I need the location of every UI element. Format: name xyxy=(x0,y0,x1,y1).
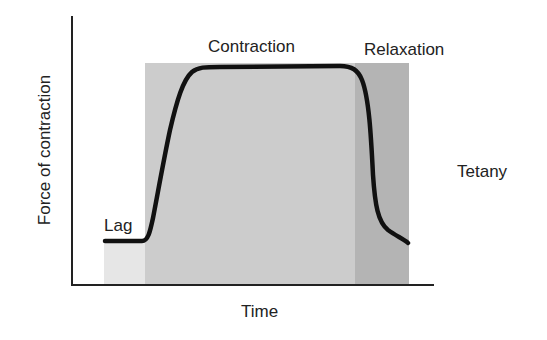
relaxation-label: Relaxation xyxy=(364,41,444,58)
contraction-label: Contraction xyxy=(208,38,295,55)
relaxation-region xyxy=(355,63,409,285)
x-axis-label: Time xyxy=(241,303,278,320)
tetany-label: Tetany xyxy=(457,163,507,180)
lag-region xyxy=(104,243,145,285)
contraction-region xyxy=(145,63,355,285)
lag-label: Lag xyxy=(104,217,132,234)
y-axis-label: Force of contraction xyxy=(36,75,53,225)
